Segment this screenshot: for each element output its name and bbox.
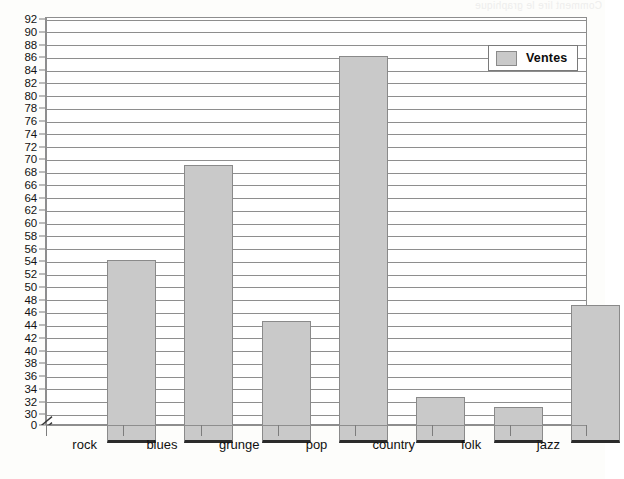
y-tick-label: 64 bbox=[24, 192, 37, 204]
bar-rock[interactable] bbox=[107, 260, 156, 443]
x-tick-label-jazz: jazz bbox=[537, 437, 560, 452]
x-tick-mark bbox=[510, 425, 511, 436]
bar-jazz[interactable] bbox=[571, 305, 620, 443]
y-tick-label: 78 bbox=[24, 102, 37, 114]
x-tick-mark bbox=[278, 425, 279, 436]
y-tick-label: 34 bbox=[24, 383, 37, 395]
y-tick-label: 60 bbox=[24, 217, 37, 229]
x-axis-line bbox=[46, 425, 587, 426]
y-tick-label: 80 bbox=[24, 90, 37, 102]
gridline bbox=[47, 32, 586, 33]
x-tick-label-grunge: grunge bbox=[219, 437, 259, 452]
chart-legend[interactable]: Ventes bbox=[488, 45, 578, 71]
y-tick-label: 58 bbox=[24, 230, 37, 242]
x-axis: rockbluesgrungepopcountryfolkjazz bbox=[46, 425, 587, 463]
y-tick-label: 32 bbox=[24, 396, 37, 408]
y-axis: 9290888684828078767472706866646260585654… bbox=[0, 17, 46, 425]
y-tick-label: 84 bbox=[24, 64, 37, 76]
x-tick-mark bbox=[586, 425, 587, 436]
bar-pop[interactable] bbox=[339, 56, 388, 443]
x-tick-mark bbox=[123, 425, 124, 436]
x-tick-label-country: country bbox=[372, 437, 415, 452]
y-tick-label: 62 bbox=[24, 204, 37, 216]
y-tick-label: 40 bbox=[24, 345, 37, 357]
bar-blues[interactable] bbox=[184, 165, 233, 444]
y-tick-label: 44 bbox=[24, 319, 37, 331]
y-tick-label: 46 bbox=[24, 306, 37, 318]
y-tick-label: 76 bbox=[24, 115, 37, 127]
y-tick-label: 0 bbox=[31, 419, 37, 431]
legend-swatch-ventes bbox=[496, 51, 517, 66]
y-tick-label: 50 bbox=[24, 281, 37, 293]
y-tick-label: 42 bbox=[24, 332, 37, 344]
y-tick-label: 66 bbox=[24, 179, 37, 191]
y-tick-label: 36 bbox=[24, 370, 37, 382]
x-tick-label-blues: blues bbox=[146, 437, 177, 452]
y-tick-label: 56 bbox=[24, 243, 37, 255]
x-tick-label-folk: folk bbox=[461, 437, 481, 452]
x-tick-mark bbox=[46, 425, 47, 436]
gridline bbox=[47, 20, 586, 21]
y-tick-label: 52 bbox=[24, 268, 37, 280]
y-tick-label: 38 bbox=[24, 357, 37, 369]
y-tick-label: 92 bbox=[24, 13, 37, 25]
y-tick-label: 68 bbox=[24, 166, 37, 178]
y-tick-label: 70 bbox=[24, 153, 37, 165]
y-tick-label: 74 bbox=[24, 128, 37, 140]
x-tick-mark bbox=[432, 425, 433, 436]
plot-area bbox=[46, 17, 587, 425]
y-tick-label: 82 bbox=[24, 77, 37, 89]
bars-layer bbox=[93, 35, 624, 443]
y-tick-label: 72 bbox=[24, 141, 37, 153]
y-tick-label: 86 bbox=[24, 51, 37, 63]
y-axis-line bbox=[45, 17, 46, 425]
y-tick-label: 48 bbox=[24, 294, 37, 306]
x-tick-label-rock: rock bbox=[72, 437, 97, 452]
x-tick-mark bbox=[355, 425, 356, 436]
y-tick-label: 54 bbox=[24, 255, 37, 267]
legend-label-ventes: Ventes bbox=[526, 51, 568, 65]
x-tick-mark bbox=[201, 425, 202, 436]
scan-bleed-through-text: Comment lire le graphique bbox=[402, 0, 602, 14]
x-tick-label-pop: pop bbox=[306, 437, 328, 452]
y-tick-label: 90 bbox=[24, 26, 37, 38]
y-tick-label: 88 bbox=[24, 39, 37, 51]
